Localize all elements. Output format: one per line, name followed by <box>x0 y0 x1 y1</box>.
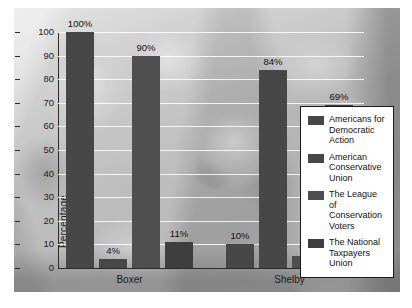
gridline <box>58 103 364 104</box>
y-tick-label: 60 <box>43 122 54 132</box>
legend-item: Americans for Democratic Action <box>308 114 387 146</box>
bar <box>259 70 287 268</box>
legend-swatch <box>308 154 324 163</box>
legend-swatch <box>308 239 324 248</box>
y-tick-mark <box>15 268 20 269</box>
legend-label: Americans for Democratic Action <box>329 114 387 146</box>
bar-value-label: 90% <box>136 43 155 53</box>
y-tick-mark <box>15 56 20 57</box>
y-tick-label: 40 <box>43 169 54 179</box>
x-axis-group-label: Boxer <box>116 274 142 285</box>
legend-item: The League of Conservation Voters <box>308 189 387 231</box>
legend-swatch <box>308 116 324 125</box>
legend-swatch <box>308 191 324 200</box>
y-tick-label: 30 <box>43 192 54 202</box>
gridline <box>58 79 364 80</box>
bar-value-label: 69% <box>329 92 348 102</box>
bar-value-label: 4% <box>106 246 120 256</box>
legend-item: The National Taxpayers Union <box>308 237 387 269</box>
y-tick-label: 0 <box>49 263 54 273</box>
y-tick-mark <box>15 174 20 175</box>
bar <box>165 242 193 268</box>
y-tick-mark <box>15 103 20 104</box>
gridline <box>58 56 364 57</box>
y-tick-label: 20 <box>43 216 54 226</box>
y-axis-ticks: 0102030405060708090100 <box>20 32 54 268</box>
chart-figure: Percentage 0102030405060708090100 100%4%… <box>0 0 412 308</box>
legend-item: American Conservative Union <box>308 152 387 184</box>
y-tick-label: 70 <box>43 98 54 108</box>
y-tick-mark <box>15 197 20 198</box>
y-tick-mark <box>15 126 20 127</box>
bar <box>99 259 127 268</box>
bar-value-label: 84% <box>263 57 282 67</box>
y-tick-mark <box>15 150 20 151</box>
bar <box>66 32 94 268</box>
gridline <box>58 32 364 33</box>
y-tick-mark <box>15 244 20 245</box>
legend-label: American Conservative Union <box>329 152 387 184</box>
chart-legend: Americans for Democratic ActionAmerican … <box>300 106 394 278</box>
y-tick-label: 10 <box>43 240 54 250</box>
y-tick-mark <box>15 79 20 80</box>
legend-label: The National Taxpayers Union <box>329 237 387 269</box>
y-tick-label: 90 <box>43 51 54 61</box>
bar-value-label: 11% <box>170 229 188 239</box>
bar-value-label: 10% <box>230 231 249 241</box>
y-tick-label: 100 <box>38 27 54 37</box>
bar <box>226 244 254 268</box>
legend-label: The League of Conservation Voters <box>329 189 387 231</box>
y-tick-label: 50 <box>43 145 54 155</box>
bar <box>132 56 160 268</box>
y-tick-mark <box>15 32 20 33</box>
y-tick-label: 80 <box>43 74 54 84</box>
bar-value-label: 100% <box>68 19 92 29</box>
y-tick-mark <box>15 221 20 222</box>
